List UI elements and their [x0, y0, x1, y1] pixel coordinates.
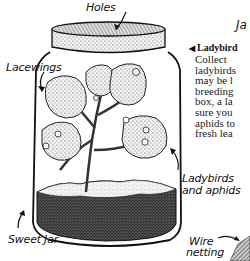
jar-lid — [52, 22, 165, 53]
caption-title: ◀Ladybird — [189, 42, 238, 53]
left-triangle-icon: ◀ — [189, 44, 195, 53]
book-page: Holes Lacewings Ladybirds and aphids Swe… — [0, 0, 250, 261]
body-line: Collect — [195, 54, 236, 65]
body-text: Collect ladybirds may be l breeding box,… — [195, 54, 236, 139]
label-wire-2: netting — [186, 247, 224, 258]
label-holes: Holes — [86, 2, 116, 13]
label-sweet-jar: Sweet Jar — [8, 234, 58, 245]
label-ladybirds-1: Ladybirds — [182, 173, 234, 184]
label-lacewings: Lacewings — [6, 62, 62, 73]
label-ladybirds-2: and aphids — [182, 185, 241, 196]
body-line: fresh lea — [195, 128, 236, 139]
section-heading: Ja — [236, 18, 247, 32]
soil-layer — [37, 180, 176, 241]
caption-title-text: Ladybird — [197, 42, 238, 53]
body-line: sure you — [195, 107, 236, 118]
wire-netting-icon — [230, 236, 250, 261]
